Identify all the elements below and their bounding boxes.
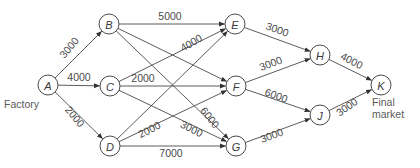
node-g: G <box>226 136 246 156</box>
node-e: E <box>225 14 245 34</box>
edge-label-b-e: 5000 <box>158 10 182 22</box>
edge-label-d-g: 7000 <box>159 147 183 159</box>
edge-label-c-e: 4000 <box>178 31 204 53</box>
node-b: B <box>99 14 119 34</box>
supply-chain-network-diagram: 3000400020005000600040002000300020007000… <box>0 0 420 168</box>
node-label: J <box>316 110 323 122</box>
node-label: D <box>106 141 114 153</box>
node-d: D <box>100 136 120 156</box>
node-label: C <box>106 81 114 93</box>
edge-label-d-f: 2000 <box>136 119 162 140</box>
edge-label-a-d: 2000 <box>63 104 87 130</box>
edge-label-h-k: 4000 <box>339 50 365 72</box>
node-k: K <box>371 75 391 95</box>
node-h: H <box>310 45 330 65</box>
edge-label-c-f: 2000 <box>131 72 155 84</box>
node-label: B <box>105 19 112 31</box>
node-a: A <box>38 75 58 95</box>
factory-caption: Factory <box>4 98 40 110</box>
node-label: G <box>232 141 241 153</box>
edge-label-j-k: 3000 <box>334 95 360 118</box>
node-f: F <box>226 76 246 96</box>
final-market-caption-line2: market <box>372 108 404 120</box>
node-label: E <box>231 19 239 31</box>
final-market-caption-line1: Final <box>372 96 395 108</box>
node-c: C <box>100 76 120 96</box>
edge-label-g-j: 3000 <box>259 126 285 145</box>
edge-a-c-arrow <box>58 85 100 86</box>
node-label: K <box>377 80 385 92</box>
edge-label-f-j: 6000 <box>263 86 289 105</box>
nodes-layer: ABCDEFGHJK <box>38 14 391 156</box>
node-label: A <box>43 80 51 92</box>
node-j: J <box>310 105 330 125</box>
edge-label-a-c: 4000 <box>67 71 91 83</box>
node-label: H <box>316 50 324 62</box>
edge-label-a-b: 3000 <box>57 35 81 61</box>
edge-label-c-g: 3000 <box>179 118 205 139</box>
